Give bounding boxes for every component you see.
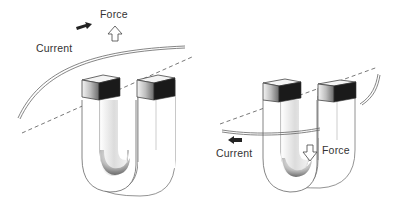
left-magnet	[82, 75, 175, 196]
left-current-label: Current	[36, 42, 72, 54]
right-current-arrow-icon	[228, 136, 242, 144]
left-force-label: Force	[100, 8, 128, 20]
right-magnet	[263, 79, 356, 192]
right-force-label: Force	[322, 144, 350, 156]
left-current-arrow-icon	[76, 22, 92, 30]
right-current-label: Current	[216, 147, 252, 159]
left-force-arrow-icon	[108, 26, 122, 41]
right-panel	[220, 67, 380, 192]
magnet-force-diagram: Force Current Current Force	[0, 0, 396, 199]
diagram-graphic	[0, 0, 396, 199]
